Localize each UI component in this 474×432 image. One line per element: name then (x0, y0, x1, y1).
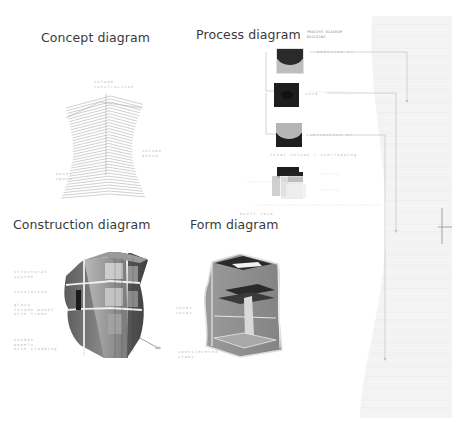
form-building (0, 0, 474, 432)
form-label-slabs: cantilevered slabs (178, 350, 218, 359)
form-label-voids: inner voids (176, 306, 193, 315)
